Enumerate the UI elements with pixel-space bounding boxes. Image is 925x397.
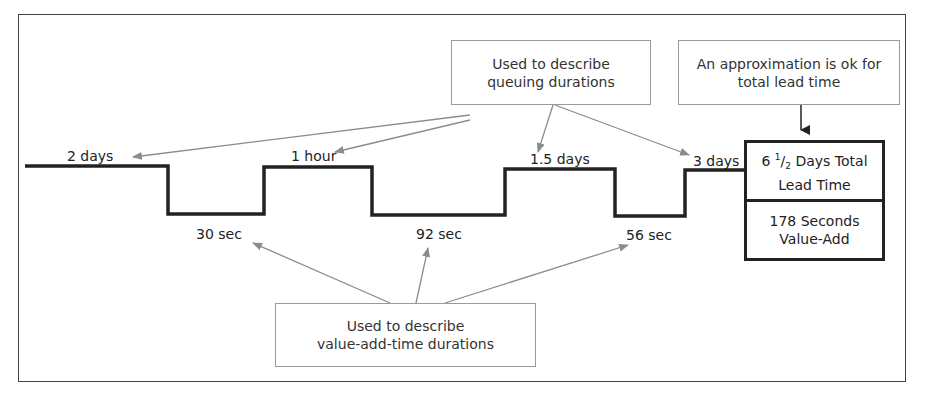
queue-time-1: 2 days (67, 148, 113, 164)
approx-callout-line1: An approximation is ok for (697, 55, 882, 73)
value-add-time-1: 30 sec (196, 226, 242, 242)
queue-time-2: 1 hour (291, 148, 336, 164)
lead-time-line1: 6 1/2 Days Total (761, 148, 867, 175)
value-add-total-line2: Value-Add (779, 230, 849, 248)
lead-time-box: 6 1/2 Days Total Lead Time (744, 140, 885, 202)
value-add-callout-line2: value-add-time durations (317, 335, 494, 353)
approx-callout: An approximation is ok for total lead ti… (678, 40, 900, 105)
value-add-callout-line1: Used to describe (347, 317, 465, 335)
approx-callout-line2: total lead time (738, 73, 841, 91)
value-add-total-line1: 178 Seconds (770, 212, 860, 230)
lead-time-suffix: Days Total (791, 153, 868, 169)
lead-time-line2: Lead Time (778, 176, 850, 194)
queue-callout-line2: queuing durations (487, 73, 615, 91)
queue-time-3: 1.5 days (530, 151, 590, 167)
lead-time-prefix: 6 (761, 153, 774, 169)
value-add-total-box: 178 Seconds Value-Add (744, 199, 885, 261)
timeline-step-line (25, 166, 744, 216)
queue-callout-line1: Used to describe (492, 55, 610, 73)
value-add-callout: Used to describe value-add-time duration… (275, 303, 536, 367)
value-add-time-3: 56 sec (626, 227, 672, 243)
value-add-time-2: 92 sec (416, 226, 462, 242)
queue-callout: Used to describe queuing durations (451, 40, 651, 105)
queue-time-4: 3 days (693, 153, 739, 169)
